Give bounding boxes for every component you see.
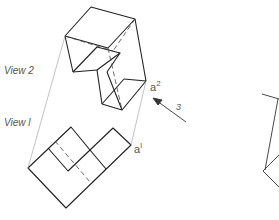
view2-label: View 2 bbox=[4, 66, 34, 76]
view2-hidden-lines bbox=[65, 19, 135, 110]
view-direction-arrow bbox=[153, 98, 186, 122]
point-a2-label: a2 bbox=[150, 80, 161, 93]
view2-shape bbox=[65, 7, 146, 110]
partial-view-right bbox=[262, 94, 279, 187]
view1-label: View l bbox=[4, 118, 31, 128]
point-a1-label: al bbox=[134, 142, 142, 155]
orthographic-projection-diagram bbox=[0, 0, 279, 220]
view1-shape bbox=[28, 127, 131, 208]
arrow-label-3: 3 bbox=[176, 103, 181, 112]
point-a1-sup: l bbox=[140, 141, 142, 150]
point-a2-sup: 2 bbox=[156, 79, 160, 88]
